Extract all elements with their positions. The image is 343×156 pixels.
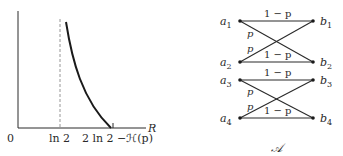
- node-a1: [238, 19, 242, 23]
- channel-caption: 𝒜: [271, 141, 286, 155]
- exponent-curve: [66, 22, 111, 128]
- output-labels: b1 b2 b3 b4: [320, 15, 332, 127]
- label-cross-2: p: [247, 43, 254, 54]
- node-b3: [311, 78, 315, 82]
- label-straight-3: 1 − p: [264, 67, 292, 78]
- node-b4: [311, 116, 315, 120]
- ln2-label: ln 2: [49, 132, 70, 145]
- node-a3: [238, 78, 242, 82]
- label-cross-1: p: [247, 28, 254, 39]
- rate-graph: 0 ln 2 2 ln 2 −ℋ(p) R: [7, 11, 156, 145]
- label-a4: a4: [220, 112, 232, 127]
- label-a3: a3: [220, 74, 232, 89]
- label-b2: b2: [320, 56, 332, 71]
- node-b1: [311, 19, 315, 23]
- label-b4: b4: [320, 112, 332, 127]
- x-axis-label: R: [147, 122, 156, 135]
- label-a2: a2: [220, 56, 232, 71]
- label-straight-2: 1 − p: [264, 49, 292, 60]
- label-a1: a1: [220, 15, 232, 30]
- origin-label: 0: [7, 132, 14, 145]
- label-straight-1: 1 − p: [264, 8, 292, 19]
- label-b1: b1: [320, 15, 332, 30]
- label-straight-4: 1 − p: [264, 105, 292, 116]
- label-b3: b3: [320, 74, 332, 89]
- node-a2: [238, 60, 242, 64]
- label-cross-4: p: [247, 101, 254, 112]
- node-b2: [311, 60, 315, 64]
- input-labels: a1 a2 a3 a4: [220, 15, 232, 127]
- label-cross-3: p: [247, 86, 254, 97]
- capacity-label: 2 ln 2 −ℋ(p): [82, 132, 153, 145]
- node-a4: [238, 116, 242, 120]
- figure: 0 ln 2 2 ln 2 −ℋ(p) R a1 a2 a3 a4 b1 b2 …: [0, 0, 343, 156]
